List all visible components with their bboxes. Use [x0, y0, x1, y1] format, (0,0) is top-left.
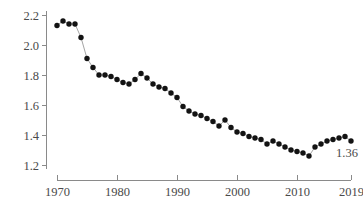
data-point-marker [270, 138, 275, 143]
data-series-line [57, 21, 351, 156]
data-point-marker [60, 18, 65, 23]
data-point-marker [252, 135, 257, 140]
data-value-annotation: 1.36 [336, 146, 358, 160]
x-tick-label: 1990 [165, 185, 190, 199]
y-tick-label: 1.4 [23, 129, 39, 143]
data-point-marker [246, 134, 251, 139]
y-tick-label: 2.0 [23, 39, 39, 53]
data-point-marker [78, 35, 83, 40]
data-point-marker [336, 135, 341, 140]
data-point-marker [204, 116, 209, 121]
data-point-marker [180, 104, 185, 109]
data-point-marker [66, 21, 71, 26]
data-point-marker [126, 81, 131, 86]
x-tick-label: 2010 [285, 185, 310, 199]
data-point-marker [216, 123, 221, 128]
data-point-marker [228, 125, 233, 130]
data-point-marker [348, 138, 353, 143]
data-point-marker [264, 141, 269, 146]
data-point-marker [210, 119, 215, 124]
data-point-marker [108, 74, 113, 79]
data-point-marker [258, 137, 263, 142]
data-point-marker [72, 21, 77, 26]
data-point-marker [186, 108, 191, 113]
data-point-marker [300, 150, 305, 155]
data-point-marker [324, 138, 329, 143]
data-point-marker [168, 90, 173, 95]
data-point-marker [342, 134, 347, 139]
x-tick-label: 2000 [225, 185, 250, 199]
data-point-marker [192, 111, 197, 116]
x-tick-label: 1970 [45, 185, 70, 199]
data-point-marker [156, 84, 161, 89]
data-point-marker [198, 113, 203, 118]
data-point-marker [294, 149, 299, 154]
data-point-marker [276, 141, 281, 146]
data-point-marker [162, 86, 167, 91]
data-point-marker [114, 77, 119, 82]
data-point-marker [144, 75, 149, 80]
y-tick-label: 1.6 [23, 99, 39, 113]
data-point-marker [234, 129, 239, 134]
data-point-marker [132, 77, 137, 82]
data-point-marker [288, 147, 293, 152]
x-tick-label: 1980 [105, 185, 130, 199]
data-point-marker [222, 117, 227, 122]
y-tick-label: 1.8 [23, 69, 39, 83]
chart-plot-area: 1.21.41.61.82.02.21970198019902000201020… [0, 0, 363, 214]
data-point-marker [120, 80, 125, 85]
data-point-marker [90, 65, 95, 70]
data-point-marker [306, 153, 311, 158]
data-point-marker [282, 144, 287, 149]
y-tick-label: 1.2 [23, 159, 39, 173]
data-point-marker [84, 56, 89, 61]
data-point-marker [312, 144, 317, 149]
data-point-marker [96, 72, 101, 77]
y-tick-label: 2.2 [23, 9, 39, 23]
data-point-marker [330, 137, 335, 142]
data-point-marker [240, 131, 245, 136]
data-point-marker [138, 71, 143, 76]
data-point-marker [174, 95, 179, 100]
fertility-rate-line-chart: 1.21.41.61.82.02.21970198019902000201020… [0, 0, 363, 214]
data-point-marker [54, 23, 59, 28]
data-point-marker [318, 141, 323, 146]
data-point-marker [150, 81, 155, 86]
data-point-marker [102, 72, 107, 77]
x-tick-label: 2019 [339, 185, 363, 199]
